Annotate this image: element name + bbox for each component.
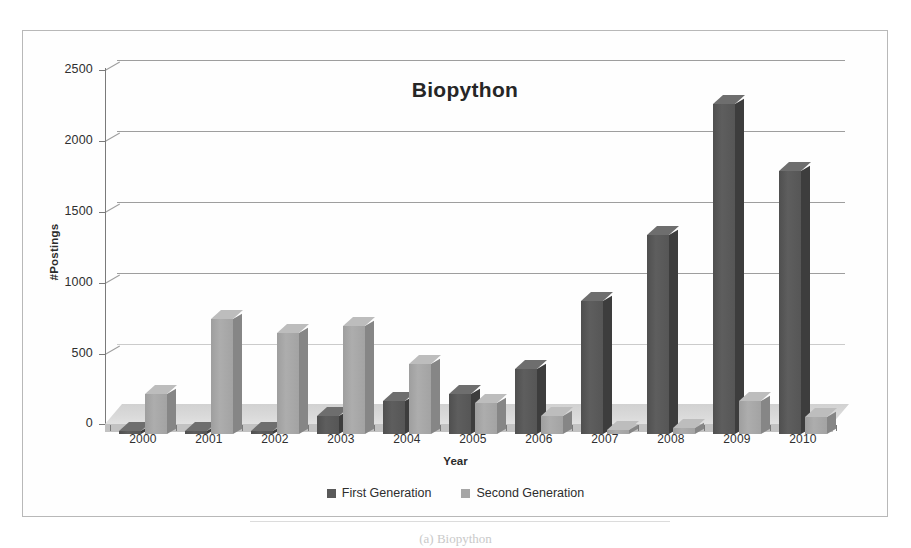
x-tick-label-2000: 2000 bbox=[113, 432, 173, 446]
bar-side-face bbox=[801, 166, 810, 434]
y-axis-title: #Postings bbox=[48, 192, 60, 312]
x-axis-tick bbox=[242, 425, 243, 431]
legend-item-second-generation[interactable]: Second Generation bbox=[461, 486, 584, 500]
legend-label: Second Generation bbox=[476, 486, 584, 500]
bar-side-face bbox=[167, 389, 176, 434]
x-axis-tick bbox=[374, 425, 375, 431]
x-tick-label-2004: 2004 bbox=[377, 432, 437, 446]
bar-side-face bbox=[233, 314, 242, 434]
scan-artifact-line bbox=[250, 521, 670, 522]
x-tick-label-2010: 2010 bbox=[773, 432, 833, 446]
legend-label: First Generation bbox=[342, 486, 432, 500]
bar-front-face bbox=[277, 333, 299, 434]
x-tick-label-2005: 2005 bbox=[443, 432, 503, 446]
x-tick-label-2003: 2003 bbox=[311, 432, 371, 446]
chart-title: Biopython bbox=[330, 78, 600, 102]
bar-second-generation-2003[interactable] bbox=[343, 326, 365, 434]
legend-swatch-icon bbox=[327, 489, 336, 498]
bar-side-face bbox=[735, 99, 744, 434]
x-axis-tick bbox=[440, 425, 441, 431]
bar-front-face bbox=[515, 369, 537, 434]
bar-second-generation-2000[interactable] bbox=[145, 394, 167, 434]
x-axis-tick bbox=[110, 425, 111, 431]
bar-front-face bbox=[581, 301, 603, 434]
bar-front-face bbox=[145, 394, 167, 434]
bar-side-face bbox=[497, 398, 506, 434]
x-tick-label-2007: 2007 bbox=[575, 432, 635, 446]
bar-second-generation-2002[interactable] bbox=[277, 333, 299, 434]
bar-side-face bbox=[299, 328, 308, 434]
chart-legend: First Generation Second Generation bbox=[0, 486, 911, 500]
figure-caption: (a) Biopython bbox=[0, 531, 911, 548]
bar-first-generation-2009[interactable] bbox=[713, 104, 735, 434]
x-tick-label-2002: 2002 bbox=[245, 432, 305, 446]
bar-second-generation-2009[interactable] bbox=[739, 401, 761, 434]
bar-front-face bbox=[647, 235, 669, 434]
legend-swatch-icon bbox=[461, 489, 470, 498]
bar-front-face bbox=[409, 364, 431, 434]
bar-side-face bbox=[761, 396, 770, 434]
bar-side-face bbox=[365, 321, 374, 434]
bar-side-face bbox=[431, 359, 440, 434]
bar-first-generation-2005[interactable] bbox=[449, 394, 471, 434]
bar-first-generation-2004[interactable] bbox=[383, 401, 405, 434]
x-tick-label-2001: 2001 bbox=[179, 432, 239, 446]
x-axis-tick bbox=[506, 425, 507, 431]
bar-first-generation-2007[interactable] bbox=[581, 301, 603, 434]
figure-page: 2500 2000 1500 1000 500 0 bbox=[0, 0, 911, 548]
x-axis-tick bbox=[308, 425, 309, 431]
chart-plot-area: 2500 2000 1500 1000 500 0 bbox=[0, 0, 911, 548]
x-tick-label-2008: 2008 bbox=[641, 432, 701, 446]
x-tick-label-2006: 2006 bbox=[509, 432, 569, 446]
bar-front-face bbox=[343, 326, 365, 434]
x-axis-tick bbox=[770, 425, 771, 431]
x-axis-tick bbox=[704, 425, 705, 431]
bar-front-face bbox=[475, 403, 497, 434]
bar-second-generation-2001[interactable] bbox=[211, 319, 233, 434]
bar-front-face bbox=[211, 319, 233, 434]
x-axis-tick bbox=[572, 425, 573, 431]
legend-item-first-generation[interactable]: First Generation bbox=[327, 486, 432, 500]
bar-second-generation-2005[interactable] bbox=[475, 403, 497, 434]
bar-side-face bbox=[603, 296, 612, 434]
bar-second-generation-2004[interactable] bbox=[409, 364, 431, 434]
bar-side-face bbox=[669, 230, 678, 434]
x-axis-tick bbox=[836, 425, 837, 431]
bar-first-generation-2010[interactable] bbox=[779, 171, 801, 434]
bar-first-generation-2006[interactable] bbox=[515, 369, 537, 434]
x-axis-title: Year bbox=[0, 455, 911, 467]
x-axis-tick bbox=[176, 425, 177, 431]
bar-front-face bbox=[739, 401, 761, 434]
bar-front-face bbox=[713, 104, 735, 434]
bar-front-face bbox=[383, 401, 405, 434]
x-tick-label-2009: 2009 bbox=[707, 432, 767, 446]
x-axis-tick bbox=[638, 425, 639, 431]
bar-front-face bbox=[779, 171, 801, 434]
bar-first-generation-2008[interactable] bbox=[647, 235, 669, 434]
bar-front-face bbox=[449, 394, 471, 434]
